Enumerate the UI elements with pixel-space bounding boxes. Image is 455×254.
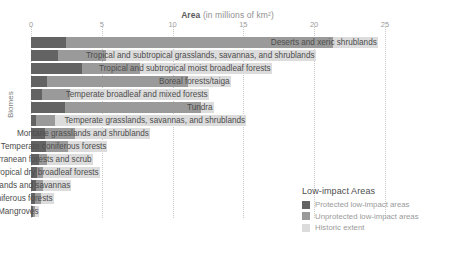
x-tick-label: 0 [29,20,33,29]
bar-row[interactable]: Boreal forests/taiga [31,76,392,87]
bar-label: Tropical and subtropical grasslands, sav… [86,50,316,62]
chart-legend: Low-impact Areas Protected low-impact ar… [302,186,452,235]
bar-row[interactable]: Mediterranean forests and scrub [31,154,392,165]
bar-row[interactable]: Montane grasslands and shrublands [31,128,392,139]
bar-label: Flooded grasslands and savannas [0,180,71,192]
legend-item-historic[interactable]: Historic extent [302,223,452,232]
bar-row[interactable]: Deserts and xeric shrublands [31,37,392,48]
legend-label: Unprotected low-impact areas [315,212,419,221]
bar-row[interactable]: Tropical and subtropical dry broadleaf f… [31,167,392,178]
bar-segment-protected [31,89,42,100]
bar-segment-unprotected [36,115,55,126]
legend-swatch-icon [302,224,310,232]
x-axis-title-unit: (in millions of km²) [200,10,273,20]
bar-label: Montane grasslands and shrublands [17,128,150,140]
legend-label: Historic extent [315,223,364,232]
bar-label: Tundra [187,102,214,114]
bar-row[interactable]: Temperate grasslands, savannas, and shru… [31,115,392,126]
bar-label: Temperate coniferous forests [1,141,108,153]
legend-item-unprotected[interactable]: Unprotected low-impact areas [302,212,452,221]
bar-segment-protected [31,37,66,48]
x-tick-label: 20 [310,20,318,29]
x-axis-title-main: Area [181,10,200,20]
bar-row[interactable]: Tropical and subtropical moist broadleaf… [31,63,392,74]
legend-item-protected[interactable]: Protected low-impact areas [302,200,452,209]
legend-label: Protected low-impact areas [315,200,409,209]
bar-row[interactable]: Tundra [31,102,392,113]
x-tick-label: 5 [100,20,104,29]
bar-label: Tropical and subtropical moist broadleaf… [99,63,272,75]
bar-segment-protected [31,76,47,87]
x-axis-title: Area (in millions of km²) [0,10,455,20]
bar-segment-protected [31,102,65,113]
bar-row[interactable]: Temperate broadleaf and mixed forests [31,89,392,100]
bar-label: Deserts and xeric shrublands [271,37,378,49]
x-tick-label: 15 [239,20,247,29]
legend-items: Protected low-impact areasUnprotected lo… [302,200,452,232]
y-axis-label: Biomes [6,91,15,118]
bar-label: Temperate grasslands, savannas, and shru… [64,115,246,127]
bar-label: Boreal forests/taiga [159,76,231,88]
x-tick-label: 25 [381,20,389,29]
bar-label: Tropical and subtropical dry broadleaf f… [0,167,100,179]
bar-row[interactable]: Temperate coniferous forests [31,141,392,152]
bar-label: Mediterranean forests and scrub [0,154,93,166]
chart-root: Area (in millions of km²) Biomes 0510152… [0,0,455,254]
bar-label: Mangroves [0,206,39,218]
legend-swatch-icon [302,212,310,220]
bar-row[interactable]: Tropical and subtropical grasslands, sav… [31,50,392,61]
bar-segment-protected [31,50,58,61]
bar-segment-unprotected [65,102,201,113]
bar-label: Tropical and subtropical coniferous fore… [0,193,54,205]
x-tick-label: 10 [168,20,176,29]
bar-label: Temperate broadleaf and mixed forests [66,89,209,101]
legend-swatch-icon [302,201,310,209]
bar-segment-protected [31,63,82,74]
legend-title: Low-impact Areas [302,186,452,196]
